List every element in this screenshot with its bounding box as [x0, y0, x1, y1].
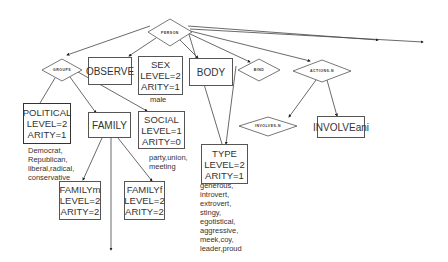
box-political-line: POLITICAL — [23, 107, 72, 118]
box-familyf: FAMILYf LEVEL=2 ARITY=2 — [124, 181, 165, 220]
edge-person-observe — [129, 38, 156, 56]
box-social: SOCIAL LEVEL=1 ARITY=0 — [138, 111, 185, 149]
box-familyf-line: LEVEL=2 — [124, 195, 164, 206]
box-involveani: INVOLVEani — [317, 116, 365, 138]
note-type: generous, introvert, extrovert, stingy, … — [200, 181, 242, 253]
box-familym-line: ARITY=2 — [61, 206, 100, 217]
box-type-line: TYPE — [212, 148, 237, 159]
box-political-line: ARITY=1 — [28, 129, 67, 140]
box-sex: SEX LEVEL=2 ARITY=1 — [138, 56, 183, 95]
edge-family-familym — [83, 138, 102, 180]
box-social-line: LEVEL=1 — [141, 125, 181, 136]
edge-person-type-a — [188, 31, 222, 144]
box-sex-line: LEVEL=2 — [140, 70, 180, 81]
box-familym-line: LEVEL=2 — [60, 195, 100, 206]
diamond-person-label: PERSON — [161, 31, 179, 35]
box-type-line: LEVEL=2 — [204, 159, 244, 170]
box-sex-line: ARITY=1 — [141, 81, 180, 92]
edge-actions-involveani — [327, 80, 337, 116]
note-sex: male — [150, 95, 166, 104]
box-family-line: FAMILY — [92, 120, 127, 131]
box-involveani-line: INVOLVEani — [313, 122, 369, 133]
box-social-line: SOCIAL — [144, 114, 179, 125]
edge-person-actions — [190, 31, 310, 61]
box-type: TYPE LEVEL=2 ARITY=1 — [201, 144, 248, 184]
box-body: BODY — [189, 58, 233, 86]
diamond-groups-label: GROUPS — [53, 68, 71, 72]
box-political-line: LEVEL=2 — [27, 118, 67, 129]
box-familyf-line: FAMILYf — [127, 184, 163, 195]
edge-groups-political — [40, 78, 55, 103]
box-observe: OBSERVE — [88, 57, 132, 85]
edge-actions-involves — [289, 80, 316, 117]
diamond-actions-label: ACTIONS-N — [310, 69, 334, 73]
box-political: POLITICAL LEVEL=2 ARITY=1 — [23, 103, 71, 144]
diamond-bind-label: BIND — [254, 68, 265, 72]
box-familyf-line: ARITY=2 — [125, 206, 164, 217]
box-sex-line: SEX — [151, 59, 170, 70]
note-political: Democrat, Republican, liberal,radical, c… — [28, 146, 74, 182]
diamond-involves-label: INVOLVES-N — [255, 124, 281, 128]
box-familym: FAMILYm LEVEL=2 ARITY=2 — [59, 181, 101, 220]
box-familym-line: FAMILYm — [60, 184, 101, 195]
box-observe-line: OBSERVE — [86, 66, 134, 77]
box-body-line: BODY — [197, 67, 225, 78]
box-type-line: ARITY=1 — [205, 170, 244, 181]
box-social-line: ARITY=0 — [142, 136, 181, 147]
box-family: FAMILY — [88, 112, 131, 138]
note-social: party,union, meeting — [149, 153, 188, 171]
